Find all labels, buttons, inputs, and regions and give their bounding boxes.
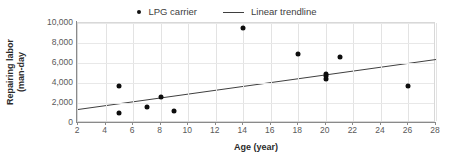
legend-entry-linear-trendline: Linear trendline xyxy=(223,7,317,17)
y-axis-tick-label: 8,000 xyxy=(5,37,77,47)
data-point xyxy=(144,104,149,109)
data-point xyxy=(406,84,411,89)
x-axis-tick-mark xyxy=(380,122,381,125)
x-axis-tick-mark xyxy=(132,122,133,125)
gridline-vertical xyxy=(353,23,354,121)
gridline-vertical xyxy=(243,23,244,121)
gridline-vertical xyxy=(298,23,299,121)
x-axis-tick-label: 4 xyxy=(102,125,107,135)
data-point xyxy=(337,54,342,59)
x-axis-tick-mark xyxy=(435,122,436,125)
y-axis-tick-label: 4,000 xyxy=(5,77,77,87)
x-axis-tick-mark xyxy=(242,122,243,125)
x-axis-tick-label: 12 xyxy=(210,125,219,135)
gridline-vertical xyxy=(161,23,162,121)
gridline-vertical xyxy=(106,23,107,121)
x-axis-tick-label: 24 xyxy=(375,125,384,135)
x-axis-tick-mark xyxy=(352,122,353,125)
x-axis-tick-label: 8 xyxy=(157,125,162,135)
x-axis-tick-label: 20 xyxy=(320,125,329,135)
gridline-vertical xyxy=(436,23,437,121)
gridline-horizontal xyxy=(78,103,434,104)
y-axis-tick-label: 6,000 xyxy=(5,57,77,67)
x-axis-tick-label: 22 xyxy=(348,125,357,135)
x-axis-tick-mark xyxy=(325,122,326,125)
x-axis-tick-mark xyxy=(187,122,188,125)
x-axis-tick-label: 16 xyxy=(265,125,274,135)
gridline-vertical xyxy=(408,23,409,121)
data-point xyxy=(323,72,328,77)
x-axis-tick-mark xyxy=(215,122,216,125)
gridline-horizontal xyxy=(78,63,434,64)
gridline-vertical xyxy=(216,23,217,121)
legend-entry-lpg-carrier: LPG carrier xyxy=(137,7,197,17)
x-axis-tick-label: 2 xyxy=(75,125,80,135)
gridline-vertical xyxy=(271,23,272,121)
x-axis-title: Age (year) xyxy=(77,142,435,152)
gridline-horizontal xyxy=(78,23,434,24)
data-point xyxy=(158,94,163,99)
x-axis-tick-label: 14 xyxy=(237,125,246,135)
gridline-horizontal xyxy=(78,83,434,84)
x-axis-line xyxy=(76,122,436,123)
data-point xyxy=(117,84,122,89)
x-axis-tick-mark xyxy=(270,122,271,125)
y-axis-tick-labels: 02,0004,0006,0008,00010,000 xyxy=(0,0,77,164)
legend-label-linear-trendline: Linear trendline xyxy=(251,7,317,17)
y-axis-tick-label: 10,000 xyxy=(5,17,77,27)
x-axis-tick-label: 18 xyxy=(293,125,302,135)
x-axis-tick-mark xyxy=(105,122,106,125)
data-point xyxy=(241,25,246,30)
x-axis-tick-mark xyxy=(160,122,161,125)
legend-label-lpg-carrier: LPG carrier xyxy=(148,7,197,17)
y-axis-tick-label: 0 xyxy=(5,117,77,127)
trendline-segment-marker-icon xyxy=(223,12,244,13)
scatter-dot-marker-icon xyxy=(137,10,141,14)
x-axis-tick-mark xyxy=(77,122,78,125)
trendline-layer xyxy=(78,23,436,123)
gridline-vertical xyxy=(133,23,134,121)
y-axis-line xyxy=(76,21,77,123)
x-axis-tick-mark xyxy=(297,122,298,125)
x-axis-tick-label: 28 xyxy=(430,125,439,135)
y-axis-tick-label: 2,000 xyxy=(5,97,77,107)
x-axis-tick-label: 6 xyxy=(130,125,135,135)
scatter-chart: LPG carrier Linear trendline Repairing l… xyxy=(0,0,454,164)
x-axis-tick-label: 26 xyxy=(403,125,412,135)
x-axis-tick-label: 10 xyxy=(182,125,191,135)
x-axis-tick-mark xyxy=(407,122,408,125)
gridline-vertical xyxy=(381,23,382,121)
gridline-vertical xyxy=(188,23,189,121)
data-point xyxy=(172,109,177,114)
data-point xyxy=(296,52,301,57)
trendline xyxy=(78,60,436,110)
plot-area xyxy=(77,22,435,122)
gridline-horizontal xyxy=(78,43,434,44)
data-point xyxy=(117,110,122,115)
